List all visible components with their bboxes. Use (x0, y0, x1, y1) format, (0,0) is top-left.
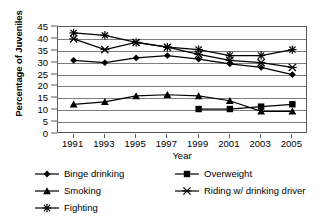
data-point-asterisk (288, 45, 296, 53)
asterisk-marker-icon (34, 202, 60, 214)
diamond-marker-icon (34, 168, 60, 180)
x-tick-label: 1997 (156, 138, 177, 149)
legend-asterisk-icon (34, 202, 60, 214)
legend-item[interactable]: Overweight (174, 168, 252, 180)
legend-triangle-icon (34, 185, 60, 197)
data-point-diamond (164, 52, 171, 59)
legend-item[interactable]: Smoking (34, 185, 101, 197)
triangle-marker-icon (34, 185, 60, 197)
data-point-diamond (226, 60, 233, 67)
series-layer (58, 27, 308, 134)
legend-item[interactable]: Fighting (34, 202, 98, 214)
data-point-square (184, 171, 190, 177)
data-point-diamond (101, 59, 108, 66)
data-point-asterisk (163, 43, 171, 51)
data-point-asterisk (132, 38, 140, 46)
data-point-asterisk (101, 31, 109, 39)
y-tick-label: 15 (37, 92, 48, 103)
data-point-x (183, 187, 192, 194)
x-tick-label: 2005 (281, 138, 302, 149)
y-tick-label: 5 (43, 116, 48, 127)
legend-item-label: Riding w/ drinking driver (204, 185, 305, 197)
legend-item[interactable]: Binge drinking (34, 168, 124, 180)
data-point-asterisk (43, 204, 51, 212)
data-point-asterisk (194, 45, 202, 53)
x-tick-label: 2003 (250, 138, 271, 149)
y-tick-label: 0 (43, 128, 48, 139)
square-marker-icon (174, 168, 200, 180)
data-point-diamond (44, 171, 51, 178)
legend-item-label: Smoking (64, 185, 101, 197)
plot-area (57, 26, 307, 133)
y-tick-label: 25 (37, 68, 48, 79)
legend-item-label: Overweight (204, 168, 252, 180)
data-point-square (227, 106, 233, 112)
x-tick-label: 2001 (218, 138, 239, 149)
legend-diamond-icon (34, 168, 60, 180)
legend-x-icon (174, 185, 200, 197)
series-smoking (70, 91, 297, 115)
legend-item-label: Binge drinking (64, 168, 124, 180)
series-fighting (69, 29, 296, 60)
y-tick-label: 20 (37, 80, 48, 91)
x-axis-title: Year (57, 150, 307, 161)
y-tick-label: 30 (37, 56, 48, 67)
x-marker-icon (174, 185, 200, 197)
y-tick-label: 40 (37, 32, 48, 43)
data-point-asterisk (226, 51, 234, 59)
legend-square-icon (174, 168, 200, 180)
data-point-diamond (70, 57, 77, 64)
y-tick-label: 45 (37, 21, 48, 32)
x-tick-label: 1993 (93, 138, 114, 149)
chart-figure: Percentage of Juveniles 0510152025303540… (0, 0, 323, 218)
x-tick-label: 1999 (187, 138, 208, 149)
x-tick-label: 1991 (62, 138, 83, 149)
chart-legend: Binge drinkingOverweightSmokingRiding w/… (34, 168, 320, 216)
y-tick-label: 35 (37, 44, 48, 55)
data-point-square (289, 101, 295, 107)
data-point-square (195, 106, 201, 112)
legend-item-label: Fighting (64, 202, 98, 214)
y-axis-ticks: 051015202530354045 (0, 26, 57, 133)
data-point-asterisk (257, 51, 265, 59)
data-point-asterisk (69, 29, 77, 37)
x-tick-label: 1995 (125, 138, 146, 149)
data-point-diamond (133, 55, 140, 62)
y-tick-label: 10 (37, 104, 48, 115)
data-point-x (100, 46, 109, 53)
data-point-x (288, 64, 297, 71)
data-point-diamond (289, 71, 296, 78)
legend-item[interactable]: Riding w/ drinking driver (174, 185, 305, 197)
